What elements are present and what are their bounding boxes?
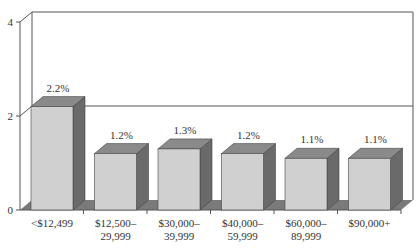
y-tick-label: 2 bbox=[8, 110, 14, 122]
bar-side bbox=[391, 148, 403, 210]
bar-side bbox=[200, 139, 212, 210]
bar bbox=[95, 154, 137, 210]
data-label: 2.2% bbox=[47, 82, 70, 94]
bar bbox=[285, 158, 327, 210]
x-tick-label: $30,000– bbox=[158, 217, 200, 229]
x-tick-label: 59,999 bbox=[227, 230, 258, 242]
bar bbox=[31, 107, 73, 210]
data-label: 1.3% bbox=[174, 124, 197, 136]
x-tick-label: $90,000+ bbox=[349, 217, 391, 229]
y-tick-label: 4 bbox=[8, 16, 14, 28]
bar-side bbox=[137, 144, 149, 210]
top-side bbox=[20, 12, 32, 22]
x-tick-label: $60,000– bbox=[285, 217, 327, 229]
bar-side bbox=[327, 148, 339, 210]
bar bbox=[222, 154, 264, 210]
x-tick-label: $12,500– bbox=[95, 217, 137, 229]
bar bbox=[158, 149, 200, 210]
x-tick-label: 29,999 bbox=[100, 230, 131, 242]
bar-chart: 0242.2%<$12,4991.2%$12,500–29,9991.3%$30… bbox=[0, 0, 420, 250]
y-tick-label: 0 bbox=[8, 204, 14, 216]
x-tick-label: 39,999 bbox=[164, 230, 195, 242]
bar-side bbox=[264, 144, 276, 210]
x-tick-label: $40,000– bbox=[222, 217, 264, 229]
x-tick-label: 89,999 bbox=[291, 230, 322, 242]
data-label: 1.2% bbox=[110, 129, 133, 141]
bar bbox=[349, 158, 391, 210]
x-tick-label: <$12,499 bbox=[31, 217, 73, 229]
data-label: 1.1% bbox=[301, 133, 324, 145]
data-label: 1.2% bbox=[237, 129, 260, 141]
data-label: 1.1% bbox=[364, 133, 387, 145]
gridline-side bbox=[20, 106, 32, 116]
bar-side bbox=[73, 97, 85, 210]
